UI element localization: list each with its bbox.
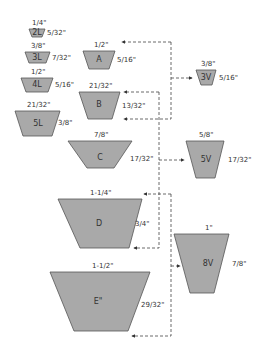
belt-2L-height: 5/32" — [47, 30, 66, 37]
belt-5V-name: 5V — [201, 156, 212, 164]
belt-2L-name: 2L — [32, 29, 42, 37]
belt-5L-height: 3/8" — [58, 120, 73, 127]
belt-D-height: 3/4" — [135, 221, 150, 228]
belt-B-width: 21/32" — [89, 83, 112, 90]
belt-8V-name: 8V — [203, 260, 214, 268]
belt-5V-width: 5/8" — [199, 132, 214, 139]
belt-8V-height: 7/8" — [232, 261, 247, 268]
belt-E-name: E" — [94, 298, 103, 306]
belt-8V-shape — [174, 234, 229, 293]
belt-3V-width: 3/8" — [201, 61, 216, 68]
belt-E-height: 29/32" — [141, 302, 164, 309]
belt-5V-height: 17/32" — [228, 157, 251, 164]
belt-3L-name: 3L — [32, 54, 42, 62]
belt-B-name: B — [96, 101, 102, 109]
belt-E-width: 1-1/2" — [92, 263, 113, 270]
belt-B-height: 13/32" — [122, 103, 145, 110]
belt-8V-width: 1" — [205, 225, 213, 232]
belt-4L-width: 1/2" — [31, 69, 46, 76]
belt-C-height: 17/32" — [130, 156, 153, 163]
belt-5L-width: 21/32" — [27, 102, 50, 109]
belt-A-width: 1/2" — [94, 42, 109, 49]
belt-3V-name: 3V — [201, 74, 212, 82]
belt-A-name: A — [96, 56, 101, 64]
belt-2L-width: 1/4" — [32, 20, 47, 27]
belt-A-height: 5/16" — [117, 57, 136, 64]
belt-3V-height: 5/16" — [219, 75, 238, 82]
belt-4L-name: 4L — [32, 81, 42, 89]
belt-C-name: C — [97, 154, 103, 162]
belt-D-name: D — [96, 220, 102, 228]
belt-4L-height: 5/16" — [55, 82, 74, 89]
belt-D-width: 1-1/4" — [90, 190, 111, 197]
belt-3L-width: 3/8" — [31, 43, 46, 50]
belt-5L-name: 5L — [33, 120, 43, 128]
belt-C-width: 7/8" — [94, 132, 109, 139]
belt-3L-height: 7/32" — [52, 55, 71, 62]
